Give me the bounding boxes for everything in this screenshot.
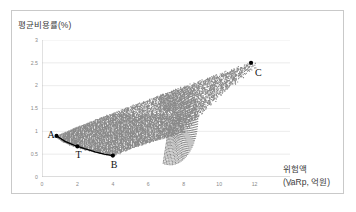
y-tick-label: 2 (22, 82, 38, 88)
point-label-B: B (111, 159, 118, 170)
y-tick-label: 1 (22, 128, 38, 134)
data-point-A (54, 134, 58, 138)
point-label-A: A (48, 129, 55, 140)
data-point-B (111, 153, 115, 157)
x-tick-label: 6 (140, 181, 156, 187)
plot-area: 00.511.522.5302468101214ATBC (42, 40, 290, 177)
x-tick-label: 12 (247, 181, 263, 187)
x-tick-label: 14 (282, 181, 298, 187)
data-point-T (75, 144, 79, 148)
x-tick-label: 4 (105, 181, 121, 187)
point-label-C: C (255, 67, 262, 78)
y-tick-label: 0 (22, 174, 38, 180)
x-tick-label: 8 (176, 181, 192, 187)
y-tick-label: 3 (22, 37, 38, 43)
x-tick-label: 0 (34, 181, 50, 187)
point-label-T: T (75, 149, 81, 160)
scatter-points (56, 63, 256, 165)
chart-figure: 평균비용률(%) 위험액 (VaRp, 억원) 00.511.522.53024… (0, 0, 356, 212)
x-tick-label: 2 (69, 181, 85, 187)
y-tick-label: 1.5 (22, 105, 38, 111)
x-tick-label: 10 (211, 181, 227, 187)
y-tick-label: 2.5 (22, 60, 38, 66)
x-axis-title-line1: 위험액 (283, 163, 330, 176)
y-tick-label: 0.5 (22, 151, 38, 157)
scatter-cloud (56, 63, 256, 165)
y-axis-title: 평균비용률(%) (18, 18, 71, 30)
data-point-C (249, 61, 253, 65)
